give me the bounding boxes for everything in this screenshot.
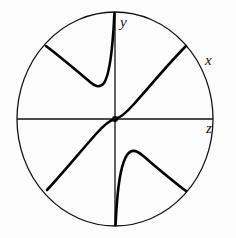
label-y: y bbox=[118, 14, 127, 30]
phase-portrait-figure: y x z bbox=[0, 0, 236, 238]
trajectory-upper-left-branch bbox=[46, 13, 115, 86]
label-z: z bbox=[205, 120, 212, 136]
origin-point bbox=[112, 116, 118, 122]
phase-portrait-svg: y x z bbox=[0, 0, 236, 238]
label-x: x bbox=[204, 52, 212, 68]
trajectory-lower-right-branch bbox=[116, 151, 187, 225]
